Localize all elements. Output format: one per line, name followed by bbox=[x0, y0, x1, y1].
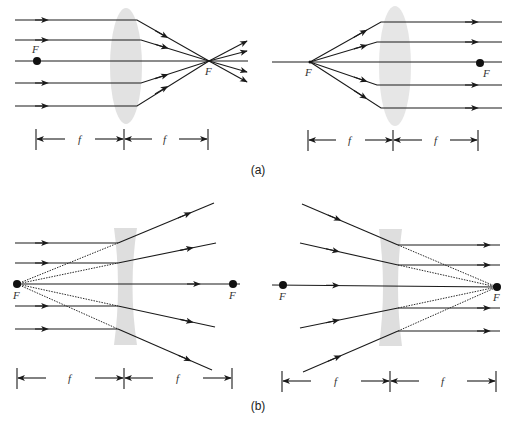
dim-label: f bbox=[68, 372, 73, 384]
focal-label: F bbox=[228, 289, 236, 301]
dim-label: f bbox=[78, 133, 83, 145]
concave-lens bbox=[114, 228, 137, 345]
caption-a: (a) bbox=[251, 163, 266, 177]
arrow-icon bbox=[354, 77, 364, 80]
arrow-icon bbox=[326, 321, 336, 323]
virtual-ray bbox=[398, 287, 497, 308]
focal-point-dot bbox=[476, 59, 484, 67]
focal-point-dot bbox=[279, 281, 287, 289]
focal-label: F bbox=[278, 290, 286, 302]
virtual-ray bbox=[17, 284, 118, 306]
arrow-icon bbox=[155, 31, 165, 37]
focal-point-dot bbox=[33, 57, 41, 65]
focal-label: F bbox=[492, 291, 500, 303]
arrow-icon bbox=[354, 46, 364, 49]
dim-label: f bbox=[441, 375, 446, 387]
virtual-ray bbox=[398, 287, 497, 331]
arrow-icon bbox=[180, 319, 190, 321]
caption-b: (b) bbox=[251, 399, 266, 413]
focal-label: F bbox=[204, 65, 212, 77]
focal-length-dimension: f f bbox=[36, 129, 208, 150]
panel-b-converging-to-focus: F F f f bbox=[272, 204, 501, 392]
focal-point-source bbox=[309, 61, 312, 64]
virtual-ray bbox=[398, 245, 497, 287]
arrow-icon bbox=[178, 214, 188, 218]
arrow-icon bbox=[155, 44, 165, 47]
arrow-icon bbox=[180, 248, 190, 250]
dim-label: f bbox=[348, 134, 353, 146]
arrow-icon bbox=[326, 249, 336, 251]
ray bbox=[209, 61, 247, 72]
ray bbox=[303, 331, 398, 372]
dim-label: f bbox=[334, 375, 339, 387]
arrow-icon bbox=[178, 355, 188, 359]
panel-a-converging-lens: F F f f bbox=[15, 8, 248, 150]
focal-label: F bbox=[304, 66, 312, 78]
arrow-icon bbox=[155, 88, 165, 94]
focal-label: F bbox=[12, 289, 20, 301]
focal-point-dot bbox=[13, 280, 21, 288]
panel-a-source-at-focus: F F f f bbox=[272, 6, 502, 151]
virtual-ray bbox=[398, 265, 497, 287]
ray bbox=[209, 41, 247, 61]
arrow-icon bbox=[328, 215, 338, 219]
dim-label: f bbox=[176, 372, 181, 384]
ray bbox=[118, 329, 212, 370]
focal-length-dimension: f f bbox=[282, 371, 496, 392]
focal-length-dimension: f f bbox=[308, 130, 478, 151]
arrow-icon bbox=[354, 91, 364, 98]
arrow-icon bbox=[155, 76, 165, 79]
focal-point-dot bbox=[493, 283, 501, 291]
panel-b-diverging-lens: F F f f bbox=[12, 203, 240, 389]
ray bbox=[209, 61, 247, 82]
optics-diagram: F F f f F F bbox=[0, 0, 517, 431]
virtual-ray bbox=[17, 263, 118, 284]
arrow-icon bbox=[328, 357, 338, 361]
ray bbox=[118, 203, 214, 243]
focal-point-dot bbox=[229, 280, 237, 288]
focal-label: F bbox=[31, 43, 39, 55]
focal-label: F bbox=[482, 67, 490, 79]
dim-label: f bbox=[434, 134, 439, 146]
ray bbox=[209, 51, 247, 61]
arrow-icon bbox=[354, 32, 364, 38]
focal-length-dimension: f f bbox=[17, 368, 232, 389]
convex-lens bbox=[110, 8, 142, 124]
dim-label: f bbox=[163, 133, 168, 145]
ray bbox=[302, 204, 398, 245]
concave-lens bbox=[379, 229, 402, 346]
